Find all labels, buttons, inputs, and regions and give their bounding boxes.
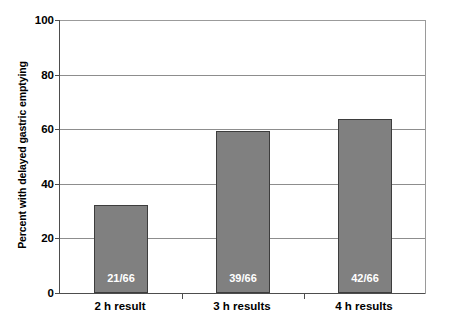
y-axis-tick-label: 40 — [14, 178, 54, 190]
bar: 21/66 — [94, 205, 148, 293]
x-axis-tick-labels: 2 h result3 h results4 h results — [59, 300, 425, 320]
plot-frame-right-edge — [425, 20, 426, 294]
bar-value-label: 21/66 — [95, 272, 147, 284]
y-axis-tick — [55, 20, 60, 21]
x-axis-tick-label: 3 h results — [213, 300, 271, 312]
y-axis-tick-label: 80 — [14, 69, 54, 81]
y-axis-tick — [55, 75, 60, 76]
bar-value-label: 39/66 — [217, 272, 269, 284]
y-axis-tick-labels: 020406080100 — [10, 20, 54, 293]
bar-chart: Percent with delayed gastric emptying 02… — [0, 0, 460, 325]
y-axis-tick — [55, 293, 60, 294]
gridline — [60, 20, 426, 21]
y-axis-tick — [55, 238, 60, 239]
x-axis-tick-label: 2 h result — [94, 300, 145, 312]
x-axis-tick — [304, 293, 305, 299]
y-axis-tick-label: 0 — [14, 287, 54, 299]
y-axis-tick — [55, 129, 60, 130]
x-axis-tick-label: 4 h results — [335, 300, 393, 312]
y-axis-tick — [55, 184, 60, 185]
y-axis-tick-label: 20 — [14, 232, 54, 244]
gridline — [60, 75, 426, 76]
bar-value-label: 42/66 — [339, 272, 391, 284]
bar: 39/66 — [216, 131, 270, 293]
y-axis-tick-label: 100 — [14, 14, 54, 26]
x-axis-tick — [182, 293, 183, 299]
bar: 42/66 — [338, 119, 392, 293]
plot-area: 21/6639/6642/66 — [59, 20, 426, 294]
y-axis-tick-label: 60 — [14, 123, 54, 135]
